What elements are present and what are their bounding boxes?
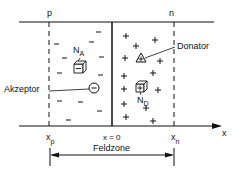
- feldzone-arrow-left-icon: [50, 153, 59, 158]
- xp-label: xp: [46, 132, 55, 146]
- ionized-acceptor-icon: [89, 83, 99, 93]
- x0-label: x = 0: [103, 133, 121, 142]
- akzeptor-leader-line: [49, 89, 89, 91]
- donor-cube-icon: [136, 81, 147, 92]
- n-region-label: n: [169, 8, 174, 18]
- feldzone-label: Feldzone: [93, 143, 130, 153]
- pn-junction-diagram: p n NA: [0, 0, 234, 177]
- acceptor-cube-icon: [74, 61, 86, 73]
- positive-charges: [121, 33, 163, 124]
- nd-label: ND: [137, 95, 149, 107]
- donator-label: Donator: [177, 41, 209, 51]
- feldzone-arrow-right-icon: [165, 153, 174, 158]
- donator-leader-line: [145, 47, 175, 58]
- x-axis-arrowhead-icon: [212, 123, 222, 129]
- na-label: NA: [73, 45, 85, 57]
- p-region-label: p: [47, 8, 52, 18]
- xn-label: xn: [171, 132, 180, 145]
- ionized-donor-icon: [136, 53, 146, 62]
- akzeptor-label: Akzeptor: [4, 84, 40, 94]
- x-axis-label: x: [222, 128, 227, 138]
